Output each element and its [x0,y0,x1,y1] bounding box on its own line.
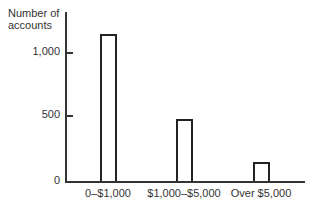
y-tick-500 [66,115,73,117]
x-category-label-over-5000: Over $5,000 [216,187,306,199]
y-axis-title: Number of accounts [8,7,59,31]
x-axis [65,181,305,183]
y-tick-label-1000: 1,000 [10,45,60,57]
y-tick-1000 [66,52,73,54]
bar-0-to-1000 [100,34,117,181]
bar-over-5000 [253,162,270,181]
bar-chart: Number of accounts 1,000 500 0 0–$1,000 … [0,0,322,203]
y-axis-title-line-1: Number of [8,7,59,19]
bar-1000-to-5000 [176,119,193,181]
y-tick-label-500: 500 [10,108,60,120]
y-tick-label-0: 0 [10,174,60,186]
y-axis-title-line-2: accounts [8,19,59,31]
y-axis [65,12,67,182]
